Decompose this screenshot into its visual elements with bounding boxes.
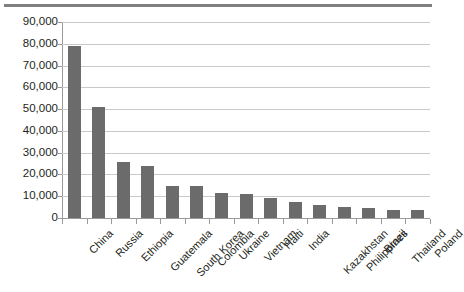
x-axis-category-label: China xyxy=(87,227,116,256)
x-axis-category-label: Ethiopia xyxy=(139,227,176,264)
x-axis-category-label: India xyxy=(306,227,331,252)
